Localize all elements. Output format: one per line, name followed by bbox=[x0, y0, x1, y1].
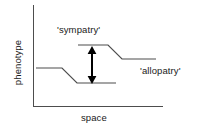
lower-population-trace bbox=[36, 68, 116, 83]
y-axis-label: phenotype bbox=[12, 28, 23, 98]
sympatry-label: 'sympatry' bbox=[57, 24, 100, 35]
divergence-arrow bbox=[88, 46, 97, 84]
sympatry-allopatry-diagram: 'sympatry' 'allopatry' space phenotype bbox=[0, 0, 199, 130]
x-axis-label: space bbox=[81, 112, 107, 123]
allopatry-label: 'allopatry' bbox=[140, 65, 181, 76]
